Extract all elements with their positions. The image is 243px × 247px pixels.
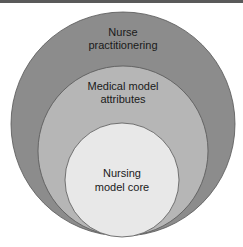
middle-label-line2: attributes (100, 93, 146, 105)
inner-label-line2: model core (95, 181, 149, 193)
outer-label-line1: Nurse (108, 26, 137, 38)
middle-label-line1: Medical model (88, 80, 159, 92)
nested-circle-diagram: Nurse practitionering Medical model attr… (0, 0, 243, 247)
inner-circle-nursing-model (65, 123, 179, 237)
outer-label-line2: practitionering (88, 39, 157, 51)
inner-label-line1: Nursing (103, 167, 141, 179)
